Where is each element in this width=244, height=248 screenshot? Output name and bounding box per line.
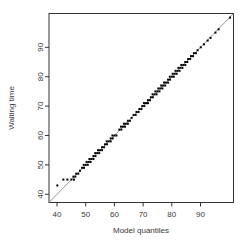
data-point bbox=[164, 85, 166, 87]
data-point bbox=[193, 52, 195, 54]
data-point bbox=[179, 70, 181, 72]
data-point bbox=[207, 40, 209, 42]
data-point bbox=[85, 164, 87, 166]
data-point bbox=[214, 32, 216, 34]
data-point bbox=[156, 90, 158, 92]
data-point bbox=[97, 149, 99, 151]
data-point bbox=[74, 176, 76, 178]
data-point bbox=[92, 155, 94, 157]
x-tick-label: 90 bbox=[196, 210, 205, 219]
data-point bbox=[120, 129, 122, 131]
data-point bbox=[101, 146, 103, 148]
data-point bbox=[167, 82, 169, 84]
y-tick-label: 90 bbox=[36, 42, 45, 51]
data-point bbox=[129, 120, 131, 122]
data-point bbox=[165, 82, 167, 84]
data-point bbox=[152, 96, 154, 98]
data-point bbox=[81, 167, 83, 169]
data-point bbox=[143, 105, 145, 107]
data-point bbox=[124, 126, 126, 128]
qq-plot-figure: 405060708090 405060708090 Model quantile… bbox=[0, 0, 244, 248]
x-tick-label: 80 bbox=[167, 210, 176, 219]
y-tick-label: 60 bbox=[36, 130, 45, 139]
data-point bbox=[177, 67, 179, 69]
data-point bbox=[96, 152, 98, 154]
y-tick-label: 50 bbox=[36, 160, 45, 169]
data-point bbox=[150, 96, 152, 98]
data-point bbox=[131, 117, 133, 119]
data-point bbox=[200, 46, 202, 48]
data-point bbox=[79, 170, 81, 172]
data-point bbox=[172, 73, 174, 75]
data-point bbox=[136, 111, 138, 113]
data-point bbox=[192, 55, 194, 57]
data-point bbox=[94, 155, 96, 157]
data-point bbox=[108, 140, 110, 142]
data-point bbox=[160, 85, 162, 87]
data-point bbox=[184, 61, 186, 63]
data-point bbox=[171, 76, 173, 78]
data-point bbox=[152, 93, 154, 95]
data-point bbox=[163, 82, 165, 84]
data-point bbox=[88, 161, 90, 163]
data-point bbox=[189, 58, 191, 60]
data-point bbox=[156, 93, 158, 95]
data-point bbox=[72, 176, 74, 178]
data-point bbox=[177, 70, 179, 72]
data-point bbox=[145, 102, 147, 104]
x-tick-label: 50 bbox=[81, 210, 90, 219]
y-tick-label: 70 bbox=[36, 101, 45, 110]
data-point bbox=[169, 76, 171, 78]
y-axis-label: Waiting time bbox=[7, 86, 16, 130]
data-point bbox=[101, 149, 103, 151]
data-point bbox=[195, 52, 197, 54]
data-point bbox=[180, 64, 182, 66]
scatter-points bbox=[56, 17, 231, 187]
data-point bbox=[143, 102, 145, 104]
data-point bbox=[173, 76, 175, 78]
data-point bbox=[87, 164, 89, 166]
data-point bbox=[174, 73, 176, 75]
data-point bbox=[73, 179, 75, 181]
data-point bbox=[157, 87, 159, 89]
data-point bbox=[176, 73, 178, 75]
data-point bbox=[92, 158, 94, 160]
data-point bbox=[127, 123, 129, 125]
qq-plot-canvas: 405060708090 405060708090 Model quantile… bbox=[0, 0, 244, 248]
data-point bbox=[75, 173, 77, 175]
data-point bbox=[125, 123, 127, 125]
data-point bbox=[203, 43, 205, 45]
data-point bbox=[70, 179, 72, 181]
data-point bbox=[113, 134, 115, 136]
data-point bbox=[190, 55, 192, 57]
x-tick-label: 70 bbox=[139, 210, 148, 219]
data-point bbox=[149, 99, 151, 101]
data-point bbox=[181, 67, 183, 69]
data-point bbox=[154, 93, 156, 95]
data-point bbox=[229, 17, 231, 19]
data-point bbox=[184, 64, 186, 66]
data-point bbox=[218, 28, 220, 30]
data-point bbox=[90, 158, 92, 160]
data-point bbox=[147, 99, 149, 101]
data-point bbox=[110, 137, 112, 139]
data-point bbox=[210, 37, 212, 39]
data-point bbox=[154, 90, 156, 92]
data-point bbox=[106, 143, 108, 145]
data-point bbox=[62, 179, 64, 181]
x-tick-label: 40 bbox=[53, 210, 62, 219]
data-point bbox=[141, 105, 143, 107]
data-point bbox=[138, 108, 140, 110]
data-point bbox=[123, 123, 125, 125]
data-point bbox=[133, 114, 135, 116]
data-point bbox=[90, 161, 92, 163]
data-point bbox=[182, 64, 184, 66]
data-point bbox=[86, 161, 88, 163]
data-point bbox=[94, 152, 96, 154]
data-point bbox=[111, 134, 113, 136]
y-tick-label: 40 bbox=[36, 189, 45, 198]
y-axis-ticks: 405060708090 bbox=[36, 42, 49, 198]
data-point bbox=[169, 79, 171, 81]
data-point bbox=[122, 126, 124, 128]
data-point bbox=[106, 140, 108, 142]
